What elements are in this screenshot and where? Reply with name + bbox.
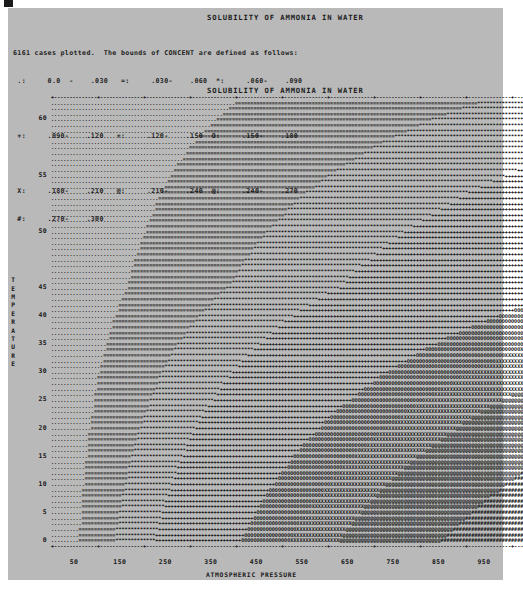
y-axis-tick: 20 (39, 424, 48, 432)
y-axis-tick: 60 (39, 114, 48, 122)
x-axis-tick-labels: 50150250350450550650750850950 (51, 558, 511, 570)
legend-row: .: 0.0 - .030 =: .030- .060 *: .060- .09… (13, 77, 483, 86)
x-axis-tick: 250 (159, 558, 172, 566)
y-axis-title-char: E (8, 285, 18, 293)
x-axis-tick: 150 (113, 558, 126, 566)
y-axis-tick: 15 (39, 452, 48, 460)
y-axis-title-char: E (8, 310, 18, 318)
x-axis-tick: 450 (250, 558, 263, 566)
y-axis-title-char: R (8, 352, 18, 360)
y-axis-tick: 5 (43, 508, 47, 516)
y-axis-tick: 35 (39, 339, 48, 347)
y-axis-title: TEMPERATURE (8, 276, 18, 368)
x-axis-tick: 550 (295, 558, 308, 566)
legend-header: 6161 cases plotted. The bounds of CONCEN… (13, 49, 483, 58)
y-axis-tick: 30 (39, 367, 48, 375)
y-axis-tick: 50 (39, 227, 48, 235)
y-axis-title-char: T (8, 335, 18, 343)
y-axis-tick: 40 (39, 311, 48, 319)
page-top-margin (0, 0, 511, 8)
y-axis-title-char: U (8, 343, 18, 351)
x-axis-tick: 650 (341, 558, 354, 566)
x-axis-tick: 50 (70, 558, 79, 566)
character-plot-canvas: +--------------+--------------+---------… (51, 95, 523, 549)
y-axis-title-char: P (8, 301, 18, 309)
y-axis-title-char: A (8, 327, 18, 335)
x-axis-tick: 350 (204, 558, 217, 566)
page-title: SOLUBILITY OF AMMONIA IN WATER (207, 13, 364, 22)
x-axis-tick: 950 (478, 558, 491, 566)
y-axis-title-char: R (8, 318, 18, 326)
plot-area: 605550454035302520151050 +--------------… (13, 95, 483, 550)
plot-bottom-axis-rule: +--------------+--------------+---------… (51, 544, 523, 550)
y-axis-tick: 25 (39, 395, 48, 403)
x-axis-tick: 850 (432, 558, 445, 566)
y-axis-title-char: T (8, 276, 18, 284)
y-axis-tick: 45 (39, 283, 48, 291)
y-axis-tick: 10 (39, 480, 48, 488)
y-axis-tick: 55 (39, 171, 48, 179)
x-axis-title: ATMOSPHERIC PRESSURE (206, 571, 297, 578)
scan-registration-mark (4, 0, 13, 7)
y-axis-title-char: E (8, 360, 18, 368)
y-axis-title-char: M (8, 293, 18, 301)
y-axis-tick: 0 (43, 536, 47, 544)
y-axis-tick-labels: 605550454035302520151050 (13, 95, 49, 550)
x-axis-tick: 750 (386, 558, 399, 566)
